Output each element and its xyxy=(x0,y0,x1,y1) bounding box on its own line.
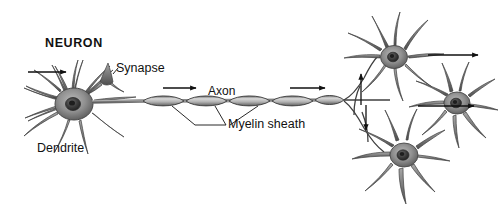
myelin-segment xyxy=(315,96,344,105)
leader-myelin-b xyxy=(215,106,226,125)
label-synapse: Synapse xyxy=(116,62,165,75)
receiving-neuron-right xyxy=(409,62,498,148)
page-title: NEURON xyxy=(45,37,103,50)
label-myelin-sheath: Myelin sheath xyxy=(228,118,305,131)
nucleolus xyxy=(453,100,457,104)
myelin-segment xyxy=(229,96,270,106)
label-dendrite: Dendrite xyxy=(37,142,84,155)
label-axon: Axon xyxy=(208,85,235,97)
nucleolus xyxy=(400,152,405,156)
myelin-segment xyxy=(272,96,313,106)
neuron-illustration xyxy=(0,0,498,216)
leader-myelin-a xyxy=(172,106,226,125)
nucleolus xyxy=(390,54,394,58)
neuron-diagram-figure: NEURON Synapse Dendrite Axon Myelin shea… xyxy=(0,0,498,216)
nucleolus xyxy=(69,100,75,105)
myelin-segment xyxy=(143,96,184,106)
